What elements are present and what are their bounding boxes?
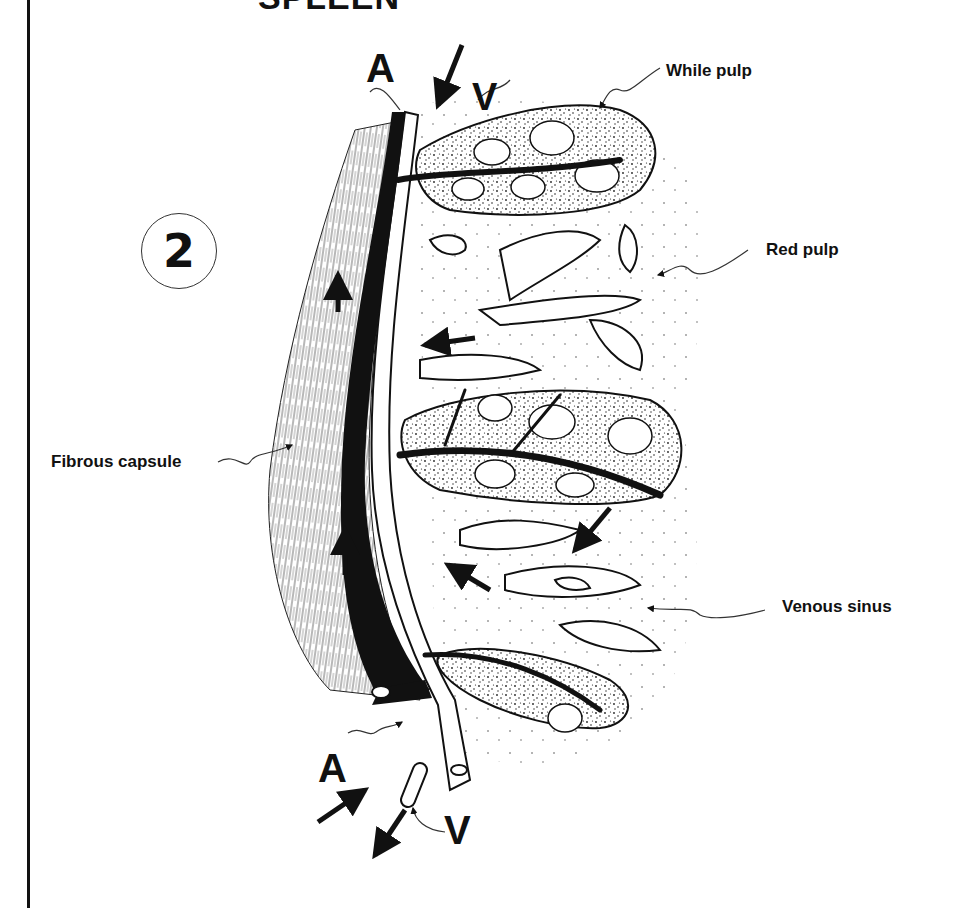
artery-label-bottom: A [318, 748, 347, 788]
red-pulp-label: Red pulp [766, 240, 839, 260]
vein-label-bottom: V [444, 810, 471, 850]
fibrous-capsule-label: Fibrous capsule [51, 452, 181, 472]
artery-label-top: A [366, 48, 395, 88]
venous-sinus-label: Venous sinus [782, 597, 892, 617]
white-pulp-label: While pulp [666, 61, 752, 81]
vein-label-top: V [472, 78, 497, 116]
